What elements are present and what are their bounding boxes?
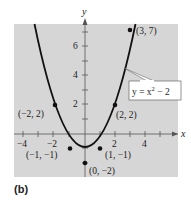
function-label: y = x2 − 2 (132, 85, 170, 97)
parabola-chart: x y −4 −2 2 4 2 4 6 (−2, 2) (−1, −1) (0,… (0, 0, 191, 180)
point-neg1-neg1 (68, 146, 73, 151)
x-axis-label: x (180, 128, 186, 139)
figure-caption: (b) (14, 183, 28, 195)
point-2-2 (113, 103, 118, 108)
point-label: (2, 2) (116, 110, 137, 121)
point-1-neg1 (98, 146, 103, 151)
y-tick-label: 6 (73, 41, 78, 51)
x-tick-label: 4 (142, 139, 147, 149)
y-axis-label: y (81, 6, 87, 17)
y-tick-label: 4 (73, 70, 78, 80)
point-neg2-2 (53, 103, 58, 108)
y-tick-label: 2 (73, 99, 78, 109)
point-0-neg2 (83, 161, 88, 166)
point-3-7 (128, 28, 133, 33)
point-label: (0, −2) (89, 166, 115, 177)
point-label: (3, 7) (136, 26, 157, 37)
x-tick-label: −4 (17, 139, 27, 149)
point-label: (1, −1) (105, 150, 131, 161)
point-label: (−1, −1) (26, 150, 57, 161)
x-tick-label: −2 (47, 139, 57, 149)
point-label: (−2, 2) (18, 109, 44, 120)
x-tick-label: 2 (112, 139, 117, 149)
y-axis-arrow-icon (83, 18, 88, 25)
